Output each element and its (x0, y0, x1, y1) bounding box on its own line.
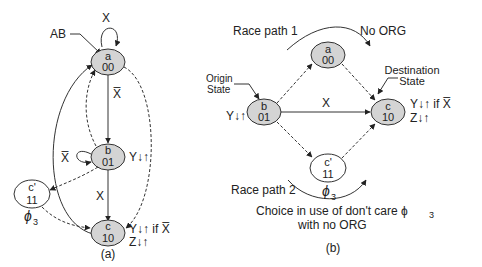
edge-a-c-dashed (124, 67, 151, 228)
origin-label-line2: State (207, 84, 231, 95)
dest-label-line2: State (399, 75, 425, 87)
svg-text:10: 10 (382, 111, 394, 123)
output-c-b-line1: Y↓↑ if X̅ (410, 97, 451, 111)
svg-text:01: 01 (258, 111, 270, 123)
dont-care-symbol-b: ϕ (322, 183, 330, 199)
edge-b-c-label: X (96, 189, 104, 203)
origin-label-line1: Origin (206, 73, 233, 84)
edge-cp-c-dashed (342, 124, 375, 158)
state-b-c: c 10 (371, 99, 405, 125)
note-line2: with no ORG (297, 218, 367, 232)
svg-text:c': c' (28, 181, 36, 193)
no-org-label: No ORG (360, 24, 406, 38)
edge-c-a (53, 65, 93, 234)
note-subscript: 3 (429, 210, 434, 220)
state-b-a: a 00 (311, 42, 345, 68)
edge-a-b-label: X̅ (113, 87, 121, 101)
race-path-2-label: Race path 2 (231, 183, 296, 197)
edge-cp-c-dashed (42, 207, 90, 228)
dest-pointer (378, 78, 398, 94)
svg-text:00: 00 (322, 54, 334, 66)
edge-b-cp-dashed (277, 122, 312, 157)
svg-text:00: 00 (102, 61, 114, 73)
output-c-line1: Y↓↑ if X̅ (129, 222, 170, 236)
edge-b-cp-dashed (50, 167, 98, 190)
self-loop-a-label: X (102, 11, 110, 25)
edge-b-c-label: X (322, 96, 330, 110)
state-b-c-prime: c' 11 (310, 154, 346, 182)
origin-pointer (234, 84, 259, 99)
self-loop-a (101, 28, 117, 47)
state-a: a 00 (91, 49, 125, 75)
output-c-b-line2: Z↓↑ (410, 111, 429, 125)
state-c: c 10 (91, 220, 125, 246)
note-line1: Choice in use of don't care ϕ (256, 204, 408, 218)
state-diagram-figure: X AB a 00 X̅ b 01 X̅ Y↓↑ X (0, 0, 482, 267)
initial-label: AB (50, 27, 66, 41)
edge-b-a-dashed (86, 70, 96, 146)
self-loop-b-label: X̅ (61, 151, 69, 165)
initial-arrow (70, 34, 101, 54)
state-b-b: b 01 (247, 99, 281, 125)
edge-b-a-dashed (277, 64, 312, 103)
self-loop-b (77, 151, 91, 162)
svg-text:11: 11 (26, 194, 37, 206)
caption-a: (a) (101, 247, 116, 261)
state-c-prime: c' 11 (14, 180, 50, 208)
dont-care-symbol: ϕ (24, 208, 32, 224)
svg-text:b: b (105, 144, 111, 156)
dont-care-subscript: 3 (33, 217, 38, 227)
edge-a-c-dashed (342, 64, 375, 100)
svg-text:c': c' (324, 156, 332, 168)
svg-text:c: c (105, 220, 111, 232)
race-path-1-label: Race path 1 (233, 24, 298, 38)
svg-text:01: 01 (102, 156, 114, 168)
state-b: b 01 (91, 144, 125, 170)
diagram-a: X AB a 00 X̅ b 01 X̅ Y↓↑ X (14, 11, 170, 261)
output-b: Y↓↑ (129, 150, 149, 164)
svg-text:11: 11 (322, 168, 333, 180)
svg-text:10: 10 (102, 232, 114, 244)
caption-b: (b) (326, 241, 341, 255)
output-b-b: Y↓↑ (226, 109, 246, 123)
dont-care-subscript-b: 3 (331, 192, 336, 202)
output-c-line2: Z↓↑ (129, 235, 148, 249)
diagram-b: Race path 1 No ORG Origin State Destinat… (206, 24, 451, 255)
